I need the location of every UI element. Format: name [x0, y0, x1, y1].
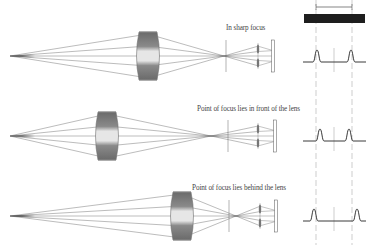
ray: [258, 141, 275, 142]
ray: [224, 52, 258, 56]
ray: [10, 136, 107, 146]
ray: [211, 126, 258, 136]
ray: [107, 114, 211, 136]
ray: [10, 136, 107, 158]
autofocus-diagram: [0, 0, 375, 245]
light-source: [10, 54, 35, 58]
row-behind: [10, 192, 366, 240]
reference-guides: [304, 0, 365, 245]
lens-icon: [171, 192, 194, 240]
label-focus-behind: Point of focus lies behind the lens: [192, 184, 286, 192]
ray: [260, 206, 276, 210]
ray: [10, 216, 182, 238]
ray: [211, 131, 258, 136]
ray: [10, 216, 182, 226]
ray: [224, 46, 258, 56]
sensor: [275, 200, 278, 232]
ray: [260, 221, 276, 225]
reference-bar: [304, 14, 365, 23]
ray: [260, 211, 276, 212]
ray: [10, 56, 148, 78]
ray: [107, 136, 211, 158]
ray: [107, 126, 211, 136]
ray: [107, 136, 211, 146]
optical-rows: [10, 32, 366, 240]
ray: [258, 46, 273, 50]
signal-profile: [303, 209, 366, 221]
sensor: [272, 40, 275, 72]
lens-icon: [137, 32, 160, 80]
ray: [10, 34, 148, 56]
ray: [236, 216, 260, 220]
label-focus-in-front: Point of focus lies in front of the lens: [197, 105, 300, 113]
signal-profile: [303, 50, 366, 62]
sensor: [274, 120, 277, 152]
ray: [10, 114, 107, 136]
ray: [10, 206, 182, 216]
ray: [258, 60, 273, 61]
ray: [258, 126, 275, 131]
row-sharp: [10, 32, 366, 80]
ray: [258, 141, 275, 146]
ray: [10, 126, 107, 136]
ray: [260, 220, 276, 221]
ray: [211, 136, 258, 141]
row-front: [10, 112, 366, 160]
ray: [224, 56, 258, 60]
ray: [211, 136, 258, 146]
ray: [236, 206, 260, 216]
ray: [236, 216, 260, 226]
signal-profile: [303, 129, 366, 141]
ray: [10, 194, 182, 216]
ray: [224, 56, 258, 66]
lens-icon: [96, 112, 119, 160]
ray: [258, 61, 273, 65]
label-in-sharp-focus: In sharp focus: [226, 24, 265, 32]
ray: [236, 212, 260, 216]
ray: [258, 51, 273, 52]
ray: [258, 131, 275, 132]
